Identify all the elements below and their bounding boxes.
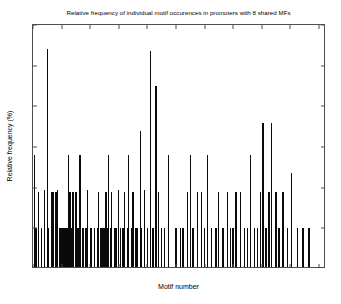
bar [190,155,191,267]
x-tick-mark [261,264,262,268]
y-tick-mark-right [321,25,325,26]
y-axis-label: Relative frequency (%) [6,111,13,182]
bar [161,228,162,267]
x-tick-mark [175,264,176,268]
bar [232,228,233,267]
bar [260,192,261,267]
x-tick-mark [290,264,291,268]
bar [271,123,272,267]
bar [175,228,176,267]
x-tick-mark [33,264,34,268]
bar [250,155,251,267]
bar [35,228,36,267]
x-tick-mark [118,264,119,268]
bar [247,228,248,267]
bar [308,228,309,267]
bar [147,228,148,267]
bar [254,228,255,267]
bar [111,192,112,267]
bar [235,192,236,267]
figure-canvas: Relative frequency of individual motif o… [0,0,341,304]
y-tick-mark [33,25,37,26]
bar [124,192,125,267]
bar [201,192,202,267]
y-tick-mark-right [321,187,325,188]
x-tick-mark-top [90,25,91,29]
bar [218,192,219,267]
bar [91,228,92,267]
bar [158,192,159,267]
bar [240,192,241,267]
bar [244,228,245,267]
x-tick-mark-top [233,25,234,29]
bar [207,155,208,267]
y-tick-mark [33,187,37,188]
bar [94,228,95,267]
bar [137,228,138,267]
bar [278,228,279,267]
y-tick-mark [33,106,37,107]
bar [211,228,212,267]
bar [287,228,288,267]
bar [180,228,181,267]
bar [227,192,228,267]
bar [297,228,298,267]
bar [44,190,45,267]
bar [222,228,223,267]
x-tick-mark-top [33,25,34,29]
x-tick-mark [147,264,148,268]
bar [265,228,266,267]
bar [128,155,129,267]
x-tick-mark-top [204,25,205,29]
x-tick-mark-top [147,25,148,29]
bar [182,228,183,267]
bar [168,155,169,267]
bar [192,228,193,267]
y-tick-mark [33,228,37,229]
bar [132,192,133,267]
bar [144,190,145,267]
x-tick-mark-top [118,25,119,29]
chart-title: Relative frequency of individual motif o… [32,9,325,17]
x-tick-mark-top [290,25,291,29]
y-tick-mark-right [321,228,325,229]
bar [187,192,188,267]
x-tick-mark-top [318,25,319,29]
bar [87,190,88,267]
x-tick-mark-top [61,25,62,29]
bar [230,228,231,267]
bar [82,228,83,267]
bar [262,123,263,267]
x-tick-mark [204,264,205,268]
x-tick-mark [90,264,91,268]
bar [155,86,156,267]
bar [275,192,276,267]
bar [141,228,142,267]
bar [268,192,269,267]
x-tick-mark [61,264,62,268]
bar [204,228,205,267]
plot-area: 0123456 020406080100120140160180200 [32,24,325,268]
bar [52,192,53,267]
x-axis-label: Motif number [32,283,325,290]
bar [57,190,58,267]
bar [282,192,283,267]
bar [257,228,258,267]
bar [215,228,216,267]
x-tick-mark [318,264,319,268]
bar [72,192,73,267]
x-tick-mark-top [261,25,262,29]
y-tick-mark [33,65,37,66]
bar [120,228,121,267]
bar [152,228,153,267]
bar [41,228,42,267]
bar [197,192,198,267]
bar-series [33,25,324,267]
bar [79,155,80,267]
bar [48,228,49,267]
x-tick-mark [233,264,234,268]
y-tick-mark [33,147,37,148]
bar [150,51,151,267]
bar [302,228,303,267]
bar [38,192,39,267]
